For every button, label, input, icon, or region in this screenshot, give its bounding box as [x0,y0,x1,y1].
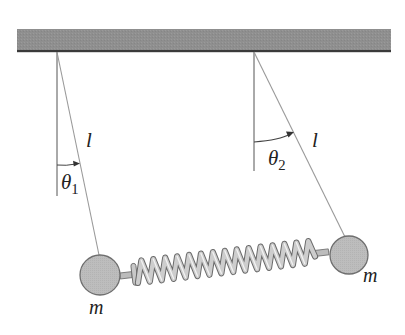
length-label-left: l [86,130,92,151]
mass-label-right: m [363,265,377,285]
theta2-subscript: 2 [278,157,285,173]
spring [119,239,330,287]
ceiling [17,29,391,52]
mass-label-left: m [89,297,103,317]
length-label-right: l [312,130,318,151]
theta2-symbol: θ [268,146,278,170]
theta1-subscript: 1 [71,181,78,197]
theta2-angle-arrow [254,132,294,143]
coupled-pendulum-diagram [0,0,405,335]
theta2-label: θ2 [268,148,286,173]
left-mass [80,255,120,295]
left-string [57,52,99,255]
theta1-symbol: θ [61,170,71,194]
theta1-label: θ1 [61,172,79,197]
theta1-angle-arrow [57,161,80,167]
right-string [254,52,345,237]
